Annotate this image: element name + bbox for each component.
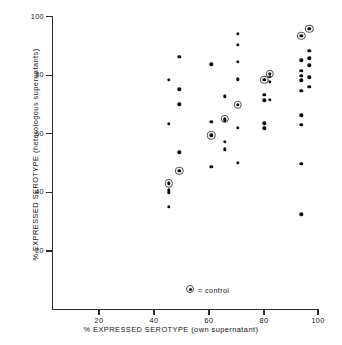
control-point-ring bbox=[297, 32, 305, 40]
data-point bbox=[300, 213, 303, 216]
data-point bbox=[300, 79, 303, 82]
data-point bbox=[210, 120, 213, 123]
data-point bbox=[178, 103, 181, 106]
data-point bbox=[300, 123, 303, 126]
data-point bbox=[236, 126, 239, 129]
data-point bbox=[236, 60, 239, 63]
control-point-ring bbox=[265, 69, 273, 77]
data-point bbox=[210, 63, 213, 66]
control-point-ring bbox=[165, 179, 173, 187]
control-point-ring bbox=[305, 25, 313, 33]
data-point bbox=[300, 89, 303, 92]
control-point-ring bbox=[207, 131, 215, 139]
data-point bbox=[268, 98, 271, 101]
data-point bbox=[300, 58, 303, 61]
data-point bbox=[268, 80, 271, 83]
data-point bbox=[223, 140, 226, 143]
data-point bbox=[236, 32, 239, 35]
data-point bbox=[178, 151, 181, 154]
data-point bbox=[263, 99, 266, 102]
data-point bbox=[167, 191, 170, 194]
plot-area bbox=[0, 0, 342, 345]
data-point bbox=[178, 55, 181, 58]
data-point bbox=[300, 162, 303, 165]
data-point bbox=[167, 205, 170, 208]
legend-control-label: = control bbox=[198, 286, 229, 295]
data-point bbox=[223, 95, 226, 98]
data-point bbox=[236, 78, 239, 81]
data-point bbox=[178, 87, 181, 90]
control-point-ring bbox=[220, 115, 228, 123]
data-point bbox=[263, 127, 266, 130]
data-point bbox=[223, 147, 226, 150]
data-point bbox=[210, 165, 213, 168]
data-point bbox=[236, 161, 239, 164]
data-point bbox=[167, 78, 170, 81]
data-point bbox=[236, 43, 239, 46]
data-point bbox=[300, 114, 303, 117]
data-point bbox=[263, 122, 266, 125]
data-point bbox=[167, 122, 170, 125]
data-point bbox=[308, 49, 311, 52]
scatter-plot-figure: % EXPRESSED SEROTYPE (heterologous super… bbox=[0, 0, 342, 345]
control-point-ring bbox=[175, 166, 183, 174]
data-point bbox=[300, 74, 303, 77]
data-point bbox=[308, 56, 311, 59]
data-point bbox=[308, 85, 311, 88]
data-point bbox=[300, 69, 303, 72]
data-point bbox=[263, 93, 266, 96]
control-point-ring bbox=[234, 100, 242, 108]
data-point bbox=[308, 75, 311, 78]
data-point bbox=[308, 63, 311, 66]
